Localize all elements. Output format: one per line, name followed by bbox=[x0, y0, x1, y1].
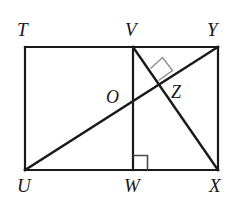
segment-UY bbox=[25, 47, 218, 170]
right-angle-marker-w-icon bbox=[133, 156, 148, 171]
vertex-label-T: T bbox=[17, 20, 28, 39]
point-label-Z: Z bbox=[171, 83, 181, 101]
vertex-label-U: U bbox=[17, 176, 31, 195]
vertex-label-W: W bbox=[124, 176, 140, 195]
vertex-label-X: X bbox=[209, 176, 221, 195]
vertex-label-Y: Y bbox=[207, 20, 218, 39]
segment-VX bbox=[133, 47, 218, 170]
geometry-figure: T V Y U W X O Z bbox=[0, 0, 233, 201]
vertex-label-V: V bbox=[125, 20, 137, 39]
point-label-O: O bbox=[106, 88, 119, 106]
